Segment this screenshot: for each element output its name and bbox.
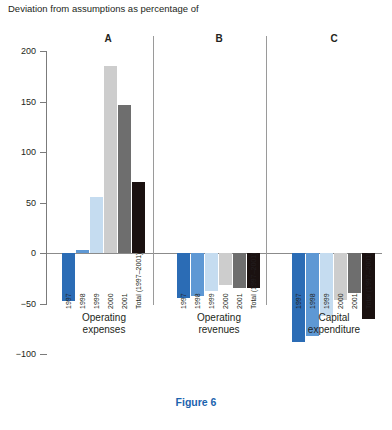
- bar-group-operating-expenses: A 19971998199920002001Total (1997–2001) …: [60, 0, 148, 360]
- x-axis-tick-label: 2000: [337, 293, 344, 309]
- y-axis-label: −50: [0, 300, 36, 309]
- x-axis-tick-label: 1997: [65, 293, 72, 309]
- figure-caption: Figure 6: [0, 396, 392, 408]
- bar: [132, 182, 145, 253]
- y-axis-tick: [40, 354, 47, 355]
- x-axis-tick-label: 2000: [107, 293, 114, 309]
- x-axis-tick-label: Total (1997–2001): [135, 253, 142, 309]
- x-axis-tick-label: 1997: [180, 293, 187, 309]
- group-name-c-line2: expenditure: [276, 324, 392, 336]
- x-axis-tick-label: Total (1997–2001): [365, 253, 372, 309]
- group-name-b-line2: revenues: [161, 324, 277, 336]
- y-axis-tick: [40, 152, 47, 153]
- group-name-a-line2: expenses: [46, 324, 162, 336]
- tick-labels-b: 19971998199920002001Total (1997–2001): [175, 257, 263, 309]
- bar: [76, 250, 89, 253]
- y-axis-tick: [40, 102, 47, 103]
- y-axis-label: 150: [0, 98, 36, 107]
- panel-divider-a-b: [153, 36, 154, 305]
- panel-divider-b-c: [266, 36, 267, 305]
- bar-group-capital-expenditure: C 19971998199920002001Total (1997–2001) …: [290, 0, 378, 360]
- y-axis-label: 0: [0, 249, 36, 258]
- plot-area: 200150100500−50−100 A 199719981999200020…: [0, 0, 392, 360]
- y-axis-tick: [40, 253, 47, 254]
- y-axis-label: 50: [0, 199, 36, 208]
- y-axis-label: −100: [0, 350, 36, 359]
- x-axis-tick-label: 2001: [236, 293, 243, 309]
- group-name-c: Capital expenditure: [276, 312, 392, 336]
- y-axis-tick: [40, 304, 47, 305]
- x-axis-tick-label: 1999: [208, 293, 215, 309]
- group-name-b: Operating revenues: [161, 312, 277, 336]
- y-axis-label: 100: [0, 148, 36, 157]
- x-axis-tick-label: Total (1997–2001): [250, 253, 257, 309]
- x-axis-tick-label: 1998: [79, 293, 86, 309]
- x-axis-tick-label: 2001: [351, 293, 358, 309]
- tick-labels-a: 19971998199920002001Total (1997–2001): [60, 257, 148, 309]
- x-axis-tick-label: 1999: [323, 293, 330, 309]
- y-axis-line: [46, 51, 47, 305]
- x-axis-tick-label: 2000: [222, 293, 229, 309]
- group-name-b-line1: Operating: [161, 312, 277, 324]
- y-axis-tick: [40, 203, 47, 204]
- group-name-a: Operating expenses: [46, 312, 162, 336]
- bar: [104, 66, 117, 253]
- bar: [118, 105, 131, 253]
- x-axis-tick-label: 1998: [194, 293, 201, 309]
- x-axis-tick-label: 1999: [93, 293, 100, 309]
- y-axis-tick: [40, 51, 47, 52]
- x-axis-tick-label: 2001: [121, 293, 128, 309]
- x-axis-tick-label: 1998: [309, 293, 316, 309]
- bar: [90, 197, 103, 253]
- group-name-a-line1: Operating: [46, 312, 162, 324]
- x-axis-tick-label: 1997: [295, 293, 302, 309]
- bar-group-operating-revenues: B 19971998199920002001Total (1997–2001) …: [175, 0, 263, 360]
- y-axis-label: 200: [0, 47, 36, 56]
- tick-labels-c: 19971998199920002001Total (1997–2001): [290, 257, 378, 309]
- group-name-c-line1: Capital: [276, 312, 392, 324]
